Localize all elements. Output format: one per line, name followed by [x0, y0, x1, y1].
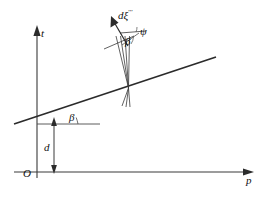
distance-d-arrow-top — [51, 117, 57, 126]
fan-tail-3 — [129, 88, 131, 107]
t-axis-arrowhead — [33, 25, 40, 36]
distance-d-arrow-bottom — [51, 165, 57, 174]
angle-markers — [131, 27, 137, 44]
angle-beta-upper-label: β — [125, 36, 130, 47]
vector-d-xi-superscript: ′′′ — [128, 8, 133, 16]
t-axis-label: t — [41, 28, 44, 39]
inclined-line — [14, 57, 216, 124]
p-axis-label: p — [246, 175, 252, 186]
angle-psi-label: ψ — [140, 26, 147, 37]
p-axis — [14, 168, 254, 175]
vector-d-xi-base: dξ — [118, 9, 128, 21]
geometry-figure: t p O d β β ψ dξ′′′ — [0, 0, 266, 200]
diagram-canvas — [0, 0, 266, 200]
angle-beta-baseline-label: β — [69, 112, 74, 123]
angle-psi-arc — [136, 27, 137, 32]
origin-label: O — [23, 168, 31, 179]
vector-d-xi-label: dξ′′′ — [118, 9, 133, 21]
t-axis — [33, 25, 40, 178]
distance-d-dimension — [51, 117, 57, 174]
distance-d-label: d — [44, 142, 50, 153]
angle-beta-arc — [76, 118, 78, 125]
